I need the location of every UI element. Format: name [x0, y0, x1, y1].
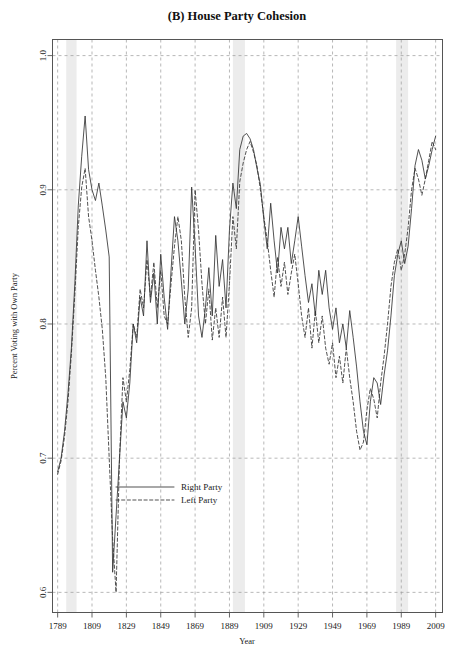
tick-label-x: 1809: [83, 621, 102, 631]
tick-label-x: 1889: [220, 621, 239, 631]
tick-label-x: 1869: [186, 621, 205, 631]
tick-label-y: 0.8: [38, 318, 48, 330]
tick-label-x: 1789: [49, 621, 68, 631]
tick-label-x: 2009: [427, 621, 446, 631]
tick-label-y: 0.9: [38, 184, 48, 196]
tick-label-x: 1849: [152, 621, 171, 631]
tick-label-x: 1829: [117, 621, 136, 631]
tick-label-y: 0.6: [38, 586, 48, 598]
y-axis-title: Percent Voting with Own Party: [9, 272, 19, 379]
tick-label-y: 1.0: [38, 49, 48, 61]
legend-label-right-party: Right Party: [181, 482, 223, 492]
tick-label-y: 0.7: [38, 452, 48, 464]
tick-label-x: 1969: [358, 621, 377, 631]
x-axis-title: Year: [239, 636, 255, 646]
chart-title: (B) House Party Cohesion: [168, 9, 307, 23]
tick-label-x: 1929: [289, 621, 308, 631]
shaded-band: [396, 40, 408, 613]
tick-label-x: 1989: [392, 621, 411, 631]
tick-label-x: 1909: [255, 621, 274, 631]
shaded-band: [233, 40, 245, 613]
shaded-band: [66, 40, 76, 613]
legend-label-left-party: Left Party: [181, 495, 218, 505]
tick-label-x: 1949: [324, 621, 343, 631]
house-party-cohesion-chart: (B) House Party Cohesion 178918091829184…: [0, 0, 464, 664]
